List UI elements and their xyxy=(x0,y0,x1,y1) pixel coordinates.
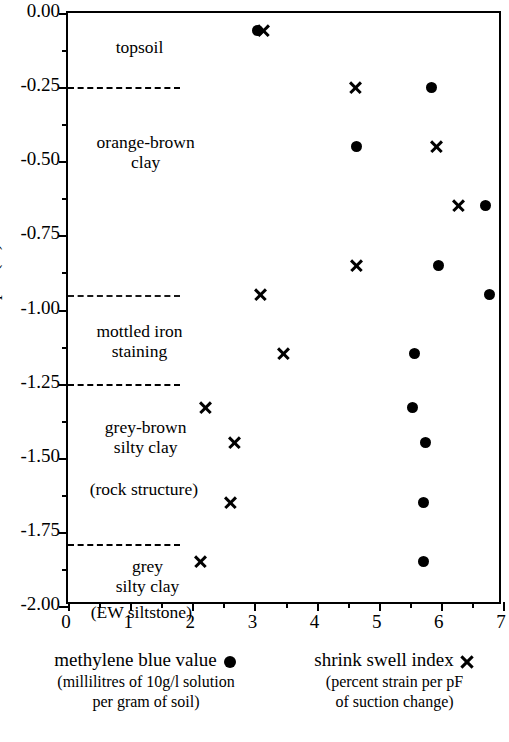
legend-label: methylene blue value xyxy=(0,648,292,672)
x-axis-tick-label: 7 xyxy=(496,612,506,631)
x-axis-tick-label: 6 xyxy=(434,612,444,631)
x-axis-tick-labels: 01234567 xyxy=(0,0,509,742)
legend-entry: shrink swell index(percent strain per pF… xyxy=(280,648,509,712)
legend-label-text: methylene blue value xyxy=(54,649,217,670)
cross-icon xyxy=(459,655,475,669)
x-axis-tick-label: 3 xyxy=(248,612,258,631)
legend-entry: methylene blue value(millilitres of 10g/… xyxy=(0,648,292,712)
legend-label: shrink swell index xyxy=(280,648,509,672)
x-axis-tick-label: 2 xyxy=(186,612,196,631)
soil-profile-chart: 0.00-0.25-0.50-0.75-1.00-1.25-1.50-1.75-… xyxy=(0,0,509,742)
x-axis-tick-label: 5 xyxy=(372,612,382,631)
legend-sublabel: (percent strain per pF xyxy=(280,672,509,692)
x-axis-tick-label: 0 xyxy=(61,612,71,631)
filled-circle-icon xyxy=(222,655,238,669)
legend-sublabel: of suction change) xyxy=(280,692,509,712)
x-axis-tick-label: 4 xyxy=(310,612,320,631)
x-axis-tick-label: 1 xyxy=(123,612,133,631)
legend-sublabel: (millilitres of 10g/l solution xyxy=(0,672,292,692)
legend-label-text: shrink swell index xyxy=(314,649,453,670)
legend-sublabel: per gram of soil) xyxy=(0,692,292,712)
